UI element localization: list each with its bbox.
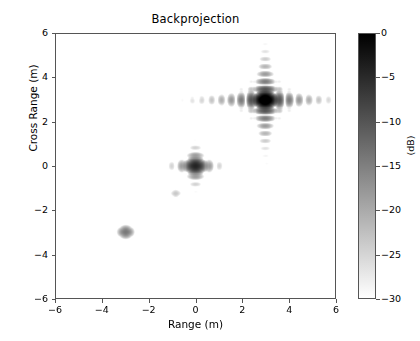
y-tick-label: −2 bbox=[25, 204, 48, 215]
y-tick-label: −6 bbox=[25, 293, 48, 304]
colorbar-tick bbox=[376, 166, 380, 167]
x-tick bbox=[55, 299, 56, 303]
colorbar-tick-label: −5 bbox=[381, 71, 395, 82]
colorbar-gradient bbox=[359, 34, 375, 298]
colorbar-tick-label: −25 bbox=[381, 249, 401, 260]
y-tick-label: −4 bbox=[25, 249, 48, 260]
colorbar-tick bbox=[376, 299, 380, 300]
colorbar-label: (dB) bbox=[405, 91, 416, 201]
y-tick bbox=[52, 33, 56, 34]
x-tick-label: −2 bbox=[134, 304, 164, 315]
colorbar-tick-label: −10 bbox=[381, 116, 401, 127]
x-tick bbox=[336, 299, 337, 303]
colorbar-tick bbox=[376, 210, 380, 211]
x-tick-label: 0 bbox=[181, 304, 211, 315]
colorbar-tick bbox=[376, 122, 380, 123]
backprojection-image bbox=[56, 34, 335, 298]
colorbar-tick-label: −15 bbox=[381, 160, 401, 171]
y-tick bbox=[52, 166, 56, 167]
x-tick-label: 2 bbox=[227, 304, 257, 315]
x-tick-label: −6 bbox=[40, 304, 70, 315]
colorbar bbox=[358, 33, 376, 299]
x-tick-label: −4 bbox=[87, 304, 117, 315]
y-tick bbox=[52, 77, 56, 78]
colorbar-tick-label: −30 bbox=[381, 293, 401, 304]
colorbar-tick-label: 0 bbox=[381, 27, 387, 38]
figure-canvas: Backprojection −6−4−20246 −6−4−20246 Ran… bbox=[0, 0, 420, 341]
y-axis-label: Cross Range (m) bbox=[27, 23, 39, 193]
x-tick-label: 6 bbox=[321, 304, 351, 315]
colorbar-tick-label: −20 bbox=[381, 204, 401, 215]
page-title: Backprojection bbox=[55, 12, 336, 26]
x-tick-label: 4 bbox=[274, 304, 304, 315]
x-tick bbox=[102, 299, 103, 303]
colorbar-tick bbox=[376, 33, 380, 34]
x-tick bbox=[149, 299, 150, 303]
colorbar-tick bbox=[376, 255, 380, 256]
colorbar-tick bbox=[376, 77, 380, 78]
y-tick bbox=[52, 122, 56, 123]
y-tick bbox=[52, 255, 56, 256]
y-tick bbox=[52, 299, 56, 300]
x-tick bbox=[289, 299, 290, 303]
x-tick bbox=[196, 299, 197, 303]
plot-area bbox=[55, 33, 336, 299]
y-tick bbox=[52, 210, 56, 211]
x-axis-label: Range (m) bbox=[55, 318, 336, 330]
x-tick bbox=[242, 299, 243, 303]
